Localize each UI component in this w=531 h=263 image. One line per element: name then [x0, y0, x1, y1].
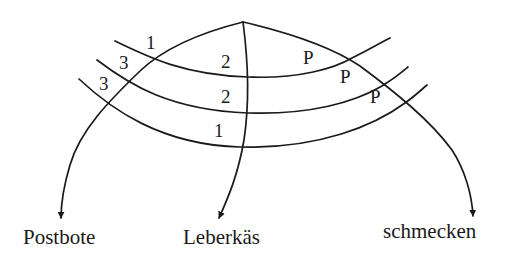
label-leberkaes: Leberkäs	[183, 225, 260, 249]
arc-1-left-label: 1	[146, 32, 156, 53]
branch-schmecken	[243, 22, 473, 216]
arc-diagram: 1 2 P 3 2 P 3 1 P Postbote Leberkäs schm…	[0, 0, 531, 263]
arc-2-middle-label: 2	[221, 86, 231, 107]
label-schmecken: schmecken	[383, 219, 477, 243]
arc-1-middle-label: 2	[221, 51, 231, 72]
arc-1-right-label: P	[303, 47, 314, 68]
arc-3-left-label: 3	[99, 73, 109, 94]
label-postbote: Postbote	[23, 225, 95, 249]
arc-2-right-label: P	[340, 66, 351, 87]
arc-3-middle-label: 1	[214, 120, 224, 141]
arc-2-left-label: 3	[119, 52, 129, 73]
arc-3-right-label: P	[370, 86, 381, 107]
